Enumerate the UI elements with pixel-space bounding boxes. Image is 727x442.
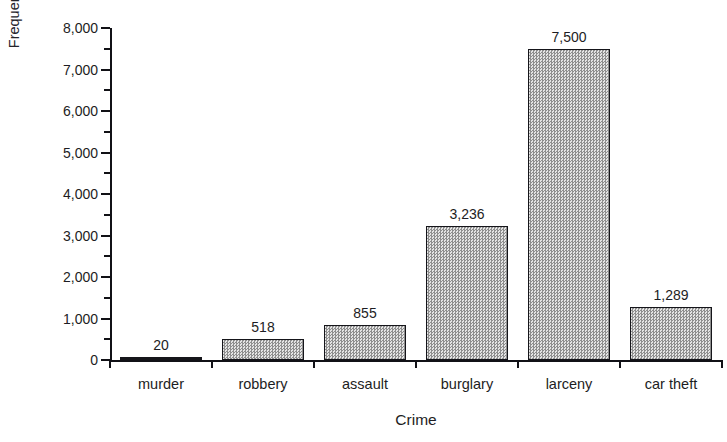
x-tick <box>211 360 213 368</box>
y-tick-major <box>101 27 110 29</box>
y-tick-label: 3,000 <box>63 228 98 244</box>
bar-larceny <box>528 49 610 360</box>
bar-value-label: 855 <box>353 305 376 321</box>
x-axis-title: Crime <box>110 411 722 429</box>
y-tick-minor <box>104 89 110 91</box>
y-tick-major <box>101 152 110 154</box>
x-tick <box>721 360 723 368</box>
bar-value-label: 20 <box>153 337 169 353</box>
y-tick-major <box>101 276 110 278</box>
category-label-murder: murder <box>138 376 184 392</box>
bar-assault <box>324 325 406 360</box>
y-tick-label: 8,000 <box>63 20 98 36</box>
y-axis-line <box>110 28 112 362</box>
y-tick-major <box>101 69 110 71</box>
y-tick-label: 2,000 <box>63 269 98 285</box>
bar-car-theft <box>630 307 712 360</box>
y-tick-major <box>101 235 110 237</box>
y-tick-minor <box>104 255 110 257</box>
category-label-larceny: larceny <box>546 376 593 392</box>
x-tick <box>517 360 519 368</box>
category-label-car-theft: car theft <box>645 376 697 392</box>
bar-robbery <box>222 339 304 360</box>
category-label-burglary: burglary <box>441 376 493 392</box>
y-tick-minor <box>104 172 110 174</box>
y-tick-label: 6,000 <box>63 103 98 119</box>
y-tick-major <box>101 318 110 320</box>
x-tick <box>619 360 621 368</box>
bar-value-label: 7,500 <box>551 29 586 45</box>
y-tick-major <box>101 193 110 195</box>
y-tick-major <box>101 110 110 112</box>
y-tick-label: 0 <box>90 352 98 368</box>
bar-value-label: 518 <box>251 319 274 335</box>
category-label-robbery: robbery <box>238 376 287 392</box>
y-axis-title: Frequency (in thousands) <box>3 0 25 82</box>
y-tick-minor <box>104 297 110 299</box>
bar-murder <box>120 357 202 360</box>
y-tick-minor <box>104 48 110 50</box>
x-tick <box>109 360 111 368</box>
category-label-assault: assault <box>342 376 388 392</box>
y-tick-minor <box>104 338 110 340</box>
x-tick <box>313 360 315 368</box>
y-tick-minor <box>104 214 110 216</box>
bar-chart-figure: Frequency (in thousands) 01,0002,0003,00… <box>0 0 727 442</box>
y-tick-label: 5,000 <box>63 145 98 161</box>
y-tick-label: 4,000 <box>63 186 98 202</box>
y-tick-label: 7,000 <box>63 62 98 78</box>
bar-burglary <box>426 226 508 360</box>
plot-area: 01,0002,0003,0004,0005,0006,0007,0008,00… <box>110 28 722 361</box>
bar-value-label: 3,236 <box>449 206 484 222</box>
bar-value-label: 1,289 <box>653 287 688 303</box>
x-tick <box>415 360 417 368</box>
y-tick-minor <box>104 131 110 133</box>
y-tick-label: 1,000 <box>63 311 98 327</box>
